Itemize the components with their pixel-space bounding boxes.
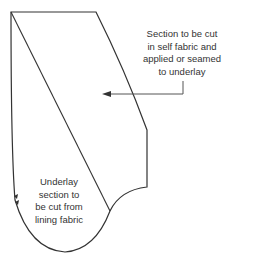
label-line: applied or seamed — [134, 53, 230, 66]
arrowhead-icon — [102, 91, 111, 97]
label-line: Section to be cut — [134, 28, 230, 41]
self-fabric-section-label: Section to be cut in self fabric and app… — [134, 28, 230, 78]
label-line: in self fabric and — [134, 41, 230, 54]
label-line: Underlay — [28, 176, 90, 189]
label-line: lining fabric — [28, 214, 90, 227]
label-line: section to — [28, 189, 90, 202]
label-line: be cut from — [28, 201, 90, 214]
label-line: to underlay — [134, 66, 230, 79]
callout-leader-line — [110, 81, 183, 94]
underlay-section-label: Underlay section to be cut from lining f… — [28, 176, 90, 226]
